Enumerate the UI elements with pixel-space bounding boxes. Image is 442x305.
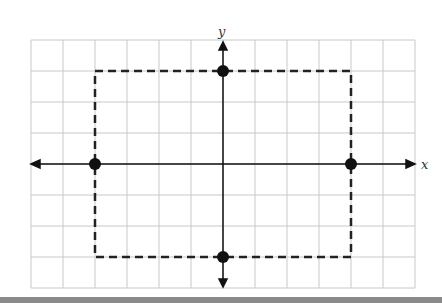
point-bottom [217, 251, 229, 263]
point-right [345, 158, 357, 170]
point-top [217, 65, 229, 77]
x-axis-label: x [421, 157, 429, 172]
coordinate-plane: x y [0, 0, 442, 305]
y-axis-label: y [217, 24, 226, 39]
bottom-bar [0, 297, 442, 303]
point-left [89, 158, 101, 170]
